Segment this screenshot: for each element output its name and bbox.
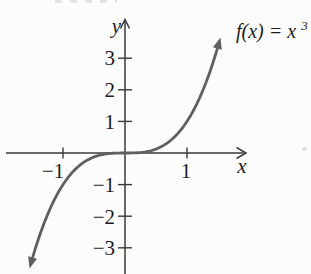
figure: y x f(x) = x 3 3 2 1 −1 −2 −3 −1 1 [0, 0, 311, 274]
function-label: f(x) = x 3 [236, 18, 308, 43]
y-tick-label-1: 1 [105, 110, 116, 134]
function-label-exponent: 3 [300, 18, 308, 33]
y-tick-label-neg3: −3 [93, 236, 115, 260]
x-tick-label-pos1: 1 [181, 159, 192, 183]
y-axis-label: y [110, 14, 122, 38]
curve-arrowhead-lower [28, 256, 37, 268]
function-label-body: f(x) = x [236, 20, 296, 43]
y-tick-label-2: 2 [105, 78, 116, 102]
graph-canvas: y x f(x) = x 3 3 2 1 −1 −2 −3 −1 1 [0, 0, 311, 274]
y-tick-label-neg1: −1 [93, 173, 115, 197]
curve-arrowhead-upper [213, 38, 222, 50]
y-tick-label-neg2: −2 [93, 205, 115, 229]
x-tick-label-neg1: −1 [42, 159, 64, 183]
x-axis-label: x [236, 154, 247, 178]
y-tick-label-3: 3 [105, 46, 116, 70]
y-axis [118, 20, 132, 274]
